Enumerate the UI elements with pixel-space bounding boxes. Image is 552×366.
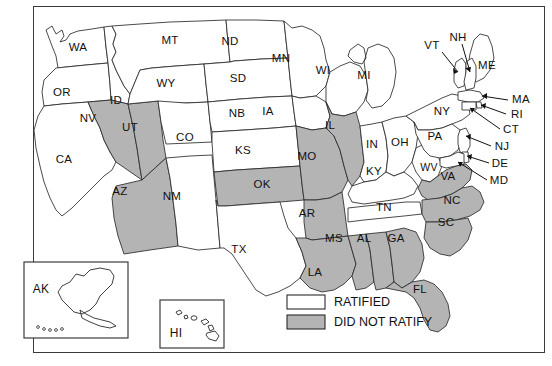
label-UT: UT	[122, 121, 138, 133]
legend-swatch-ratified	[287, 295, 325, 309]
label-AR: AR	[299, 207, 316, 219]
label-IA: IA	[262, 105, 273, 117]
label-KY: KY	[366, 165, 382, 177]
state-NH[interactable]	[464, 58, 476, 90]
label-WV: WV	[420, 161, 438, 173]
label-NB: NB	[229, 107, 246, 119]
legend-label-ratified: RATIFIED	[334, 295, 390, 309]
state-SD[interactable]	[204, 58, 292, 102]
state-MN[interactable]	[284, 21, 330, 98]
alaska-inset[interactable]: AK	[24, 262, 128, 338]
label-SD: SD	[230, 72, 247, 84]
label-IN: IN	[366, 138, 378, 150]
label-FL: FL	[413, 283, 427, 295]
label-KS: KS	[235, 144, 251, 156]
label-MD: MD	[490, 174, 509, 186]
label-AZ: AZ	[112, 185, 127, 197]
label-NM: NM	[163, 190, 182, 202]
label-AK: AK	[33, 282, 50, 296]
label-VT: VT	[424, 39, 439, 51]
label-TN: TN	[376, 201, 392, 213]
state-NB[interactable]	[208, 96, 296, 132]
label-NY: NY	[434, 105, 451, 117]
state-NJ[interactable]	[458, 128, 470, 154]
label-ID: ID	[110, 94, 122, 106]
label-NH: NH	[449, 31, 466, 43]
label-SC: SC	[438, 216, 455, 228]
label-CA: CA	[56, 153, 73, 165]
label-IL: IL	[325, 119, 335, 131]
label-CO: CO	[176, 131, 194, 143]
us-ratification-map: WA OR ID MT ND MN WI MI SD WY NV UT CO N…	[0, 0, 552, 366]
legend-swatch-did-not-ratify	[287, 315, 325, 329]
label-OR: OR	[53, 86, 71, 98]
state-TX[interactable]	[216, 200, 306, 296]
label-AL: AL	[357, 232, 372, 244]
label-NC: NC	[443, 194, 460, 206]
hawaii-inset[interactable]: HI	[160, 300, 224, 348]
legend: RATIFIED DID NOT RATIFY	[287, 295, 433, 329]
label-OH: OH	[391, 136, 409, 148]
label-MA: MA	[512, 93, 530, 105]
state-KS[interactable]	[212, 126, 300, 172]
label-OK: OK	[253, 178, 270, 190]
label-TX: TX	[231, 243, 246, 255]
label-LA: LA	[308, 266, 323, 278]
label-NJ: NJ	[495, 140, 510, 152]
state-MA[interactable]	[458, 90, 484, 102]
label-ND: ND	[221, 35, 238, 47]
leader-line-CT	[470, 108, 500, 129]
label-CT: CT	[503, 123, 519, 135]
label-NV: NV	[80, 112, 97, 124]
label-VA: VA	[440, 170, 455, 182]
label-MO: MO	[297, 150, 316, 162]
label-WY: WY	[156, 77, 175, 89]
label-WI: WI	[316, 64, 331, 76]
label-WA: WA	[69, 41, 88, 53]
label-PA: PA	[427, 130, 442, 142]
label-HI: HI	[170, 326, 183, 340]
label-GA: GA	[387, 232, 404, 244]
label-MN: MN	[272, 52, 291, 64]
label-MI: MI	[357, 69, 370, 81]
label-DE: DE	[492, 157, 509, 169]
label-MS: MS	[325, 232, 343, 244]
label-MT: MT	[161, 34, 178, 46]
label-ME: ME	[478, 59, 496, 71]
label-RI: RI	[511, 108, 523, 120]
state-OR[interactable]	[42, 63, 111, 106]
legend-label-did-not-ratify: DID NOT RATIFY	[334, 315, 433, 329]
state-LA[interactable]	[296, 236, 356, 292]
